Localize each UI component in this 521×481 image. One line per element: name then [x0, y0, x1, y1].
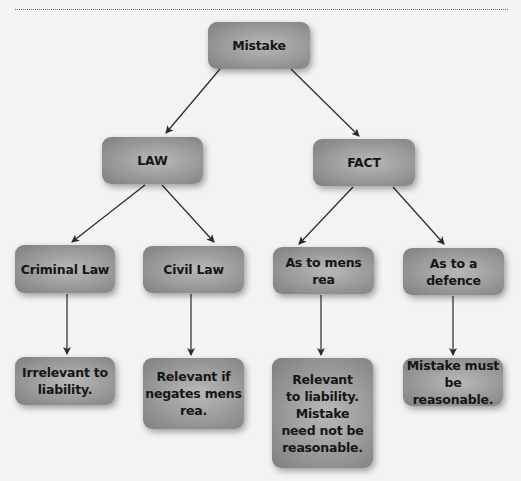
node-criminal-law: Criminal Law	[15, 245, 115, 293]
node-civil-outcome: Relevant if negates mens rea.	[143, 358, 244, 429]
node-mens-rea-outcome: Relevant to liability. Mistake need not …	[272, 358, 373, 468]
node-mistake: Mistake	[208, 22, 310, 69]
edge-fact-mensrea	[299, 187, 353, 244]
node-label: As to mens rea	[273, 254, 374, 288]
edges-layer	[0, 0, 521, 481]
node-label: FACT	[347, 154, 381, 171]
node-label: As to a defence	[403, 255, 504, 289]
node-defence: As to a defence	[403, 248, 504, 295]
edge-root-fact	[291, 69, 359, 136]
node-label: LAW	[137, 152, 167, 169]
node-label: Relevant to liability. Mistake need not …	[281, 371, 363, 456]
node-mens-rea: As to mens rea	[273, 247, 374, 294]
node-label: Civil Law	[163, 261, 224, 278]
node-label: Mistake must be reasonable.	[403, 357, 503, 408]
node-label: Criminal Law	[21, 261, 109, 278]
edge-root-law	[166, 69, 220, 133]
edge-law-criminal	[72, 185, 145, 242]
edge-fact-defence	[393, 187, 444, 244]
node-defence-outcome: Mistake must be reasonable.	[403, 358, 503, 406]
node-civil-law: Civil Law	[143, 246, 244, 293]
node-label: Mistake	[232, 37, 286, 54]
node-criminal-outcome: Irrelevant to liability.	[15, 357, 115, 405]
node-law: LAW	[102, 137, 203, 184]
node-label: Relevant if negates mens rea.	[145, 368, 241, 419]
edge-law-civil	[162, 185, 214, 242]
node-fact: FACT	[313, 139, 415, 186]
node-label: Irrelevant to liability.	[22, 364, 108, 398]
